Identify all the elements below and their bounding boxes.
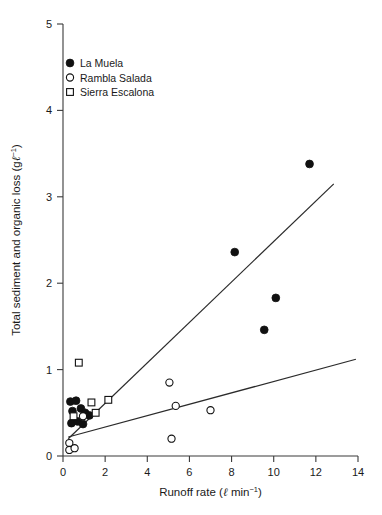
- data-point: [260, 326, 268, 334]
- series-la-muela: [66, 160, 313, 428]
- y-axis-title: Total sediment and organic loss (gℓ−1): [9, 144, 22, 336]
- data-point: [231, 248, 239, 256]
- y-tick-label-1: 1: [46, 364, 52, 376]
- legend-label-rambla-salada: Rambla Salada: [80, 72, 152, 84]
- data-point: [306, 160, 314, 168]
- legend-marker-open-circle: [66, 74, 73, 81]
- data-point: [166, 379, 173, 386]
- legend-marker-filled-circle: [66, 59, 74, 67]
- data-point: [168, 435, 175, 442]
- data-point: [172, 402, 179, 409]
- data-point: [272, 294, 280, 302]
- data-point: [71, 445, 78, 452]
- legend-label-la-muela: La Muela: [80, 57, 123, 69]
- x-tick-label-2: 2: [102, 466, 108, 478]
- data-point: [92, 409, 99, 416]
- data-point: [88, 399, 95, 406]
- x-tick-label-10: 10: [268, 466, 280, 478]
- x-tick-label-6: 6: [186, 466, 192, 478]
- y-tick-label-2: 2: [46, 277, 52, 289]
- x-tick-label-8: 8: [229, 466, 235, 478]
- data-point: [79, 420, 87, 428]
- chart-canvas: 02468101214012345La MuelaRambla SaladaSi…: [0, 0, 382, 515]
- x-tick-label-0: 0: [60, 466, 66, 478]
- y-tick-label-3: 3: [46, 191, 52, 203]
- data-point: [207, 407, 214, 414]
- data-point: [79, 413, 86, 420]
- legend-label-sierra-escalona: Sierra Escalona: [80, 86, 154, 98]
- x-tick-label-4: 4: [144, 466, 150, 478]
- y-tick-label-4: 4: [46, 104, 52, 116]
- x-axis-title: Runoff rate (ℓ min−1): [159, 485, 262, 498]
- x-tick-label-14: 14: [352, 466, 364, 478]
- legend-marker-open-square: [67, 89, 74, 96]
- data-point: [75, 359, 82, 366]
- data-point: [105, 396, 112, 403]
- data-point: [72, 397, 80, 405]
- scatter-plot-figure: 02468101214012345La MuelaRambla SaladaSi…: [0, 0, 382, 515]
- y-tick-label-5: 5: [46, 18, 52, 30]
- data-point: [70, 413, 77, 420]
- x-tick-label-12: 12: [310, 466, 322, 478]
- y-tick-label-0: 0: [46, 450, 52, 462]
